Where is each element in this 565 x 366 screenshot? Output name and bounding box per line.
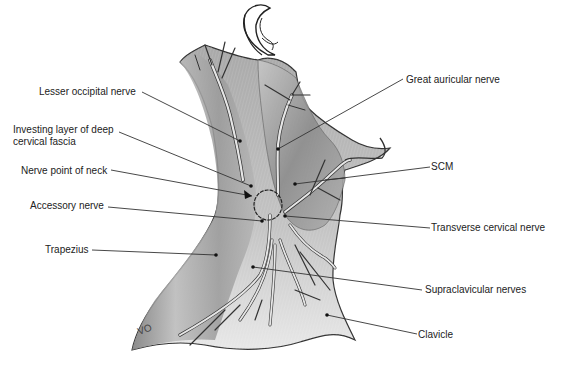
label-nerve-point-of-neck: Nerve point of neck bbox=[21, 165, 107, 177]
label-trapezius: Trapezius bbox=[45, 244, 89, 256]
label-investing-layer-line1: Investing layer of deep bbox=[13, 124, 114, 136]
anatomy-diagram: VO Lesser occipi bbox=[0, 0, 565, 366]
label-lesser-occipital-nerve: Lesser occipital nerve bbox=[39, 86, 136, 98]
label-transverse-cervical-nerve: Transverse cervical nerve bbox=[431, 222, 545, 234]
label-great-auricular-nerve: Great auricular nerve bbox=[406, 74, 500, 86]
label-investing-layer-line2: cervical fascia bbox=[13, 136, 76, 148]
neck-illustration: VO bbox=[0, 0, 565, 366]
label-accessory-nerve: Accessory nerve bbox=[30, 200, 104, 212]
label-supraclavicular-nerves: Supraclavicular nerves bbox=[425, 284, 526, 296]
label-clavicle: Clavicle bbox=[418, 329, 453, 341]
ear-illustration bbox=[244, 5, 278, 55]
label-scm: SCM bbox=[431, 161, 453, 173]
